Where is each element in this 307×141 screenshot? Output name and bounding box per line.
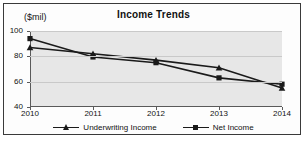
- legend-item-underwriting-income: Underwriting Income: [53, 123, 156, 132]
- x-tick-label: 2013: [202, 109, 236, 118]
- gridline: [30, 56, 282, 57]
- data-point-square: [27, 36, 32, 41]
- y-tick-mark: [27, 82, 30, 83]
- x-tick-label: 2011: [76, 109, 110, 118]
- chart-legend: Underwriting Income Net Income: [0, 120, 307, 134]
- data-point-square: [153, 60, 158, 65]
- x-tick-label: 2010: [13, 109, 47, 118]
- chart-title: Income Trends: [0, 9, 307, 20]
- x-tick-label: 2014: [265, 109, 299, 118]
- legend-item-net-income: Net Income: [183, 123, 254, 132]
- legend-label-net-income: Net Income: [213, 123, 254, 132]
- x-tick-label: 2012: [139, 109, 173, 118]
- y-tick-label: 60: [1, 77, 23, 86]
- y-tick-label: 80: [1, 51, 23, 60]
- plot-area: [30, 31, 282, 107]
- legend-label-underwriting-income: Underwriting Income: [83, 123, 156, 132]
- gridline: [30, 82, 282, 83]
- y-tick-mark: [27, 56, 30, 57]
- y-tick-label: 100: [1, 26, 23, 35]
- y-tick-mark: [27, 31, 30, 32]
- series-lines: [30, 31, 282, 107]
- square-marker-icon: [183, 123, 209, 132]
- triangle-marker-icon: [53, 123, 79, 132]
- gridline: [30, 31, 282, 32]
- income-trends-chart: ($mil) Income Trends 406080100 201020112…: [0, 0, 307, 141]
- data-point-square: [216, 75, 221, 80]
